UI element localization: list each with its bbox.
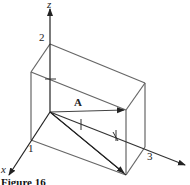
vector-box-diagram: z 2 1 3 A x Figure 16 xyxy=(0,0,190,185)
diagonal-bottom xyxy=(50,112,126,175)
y-tick-label: 3 xyxy=(147,150,153,162)
x-axis-label: x xyxy=(0,163,6,175)
vector-a-arrow xyxy=(50,110,124,112)
z-tick-label: 2 xyxy=(39,31,45,43)
x-tick-label: 1 xyxy=(28,142,34,154)
z-axis-label: z xyxy=(46,0,52,10)
y-axis xyxy=(50,112,185,165)
vector-a-label: A xyxy=(74,96,82,108)
rectangular-box xyxy=(31,44,145,175)
figure-caption: Figure 16 xyxy=(1,176,46,185)
